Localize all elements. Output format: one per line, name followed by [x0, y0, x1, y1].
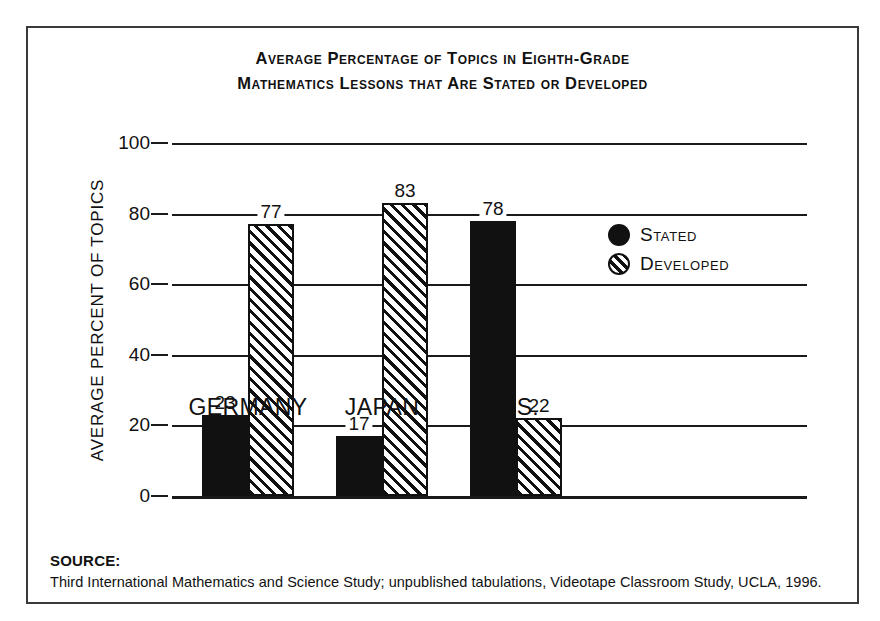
y-axis-title: AVERAGE PERCENT OF TOPICS — [85, 143, 111, 496]
chart-title: Average Percentage of Topics in Eighth-G… — [28, 46, 857, 96]
legend-label-developed: Developed — [640, 253, 729, 275]
y-tick-mark-80 — [151, 213, 168, 215]
bar-value-label: 77 — [257, 201, 284, 223]
source-text: Third International Mathematics and Scie… — [50, 574, 840, 590]
y-tick-mark-100 — [151, 142, 168, 144]
y-tick-mark-0 — [151, 495, 168, 497]
source-block: SOURCE: Third International Mathematics … — [50, 552, 840, 590]
y-axis-title-label: AVERAGE PERCENT OF TOPICS — [88, 178, 108, 460]
hatched-circle-icon — [608, 253, 630, 275]
chart-legend: Stated Developed — [608, 220, 729, 278]
gridline-100 — [172, 143, 807, 145]
x-axis-label-japan: JAPAN — [345, 394, 419, 421]
y-tick-label-0: 0 — [139, 485, 150, 507]
legend-item-stated: Stated — [608, 220, 729, 249]
plot-area: 020406080100237717837822 — [172, 143, 807, 496]
y-tick-label-80: 80 — [129, 203, 150, 225]
chart-frame: Average Percentage of Topics in Eighth-G… — [26, 26, 859, 604]
x-axis-label-germany: GERMANY — [188, 394, 307, 421]
bar-us-stated: 78 — [470, 221, 516, 496]
y-tick-mark-40 — [151, 354, 168, 356]
filled-circle-icon — [608, 224, 630, 246]
bar-germany-developed: 77 — [248, 224, 294, 496]
bar-japan-stated: 17 — [336, 436, 382, 496]
gridline-0 — [172, 496, 807, 499]
bar-value-label: 83 — [391, 180, 418, 202]
bar-germany-stated: 23 — [202, 415, 248, 496]
bar-japan-developed: 83 — [382, 203, 428, 496]
chart-title-line-2: Mathematics Lessons that Are Stated or D… — [28, 71, 857, 96]
y-tick-label-60: 60 — [129, 273, 150, 295]
y-tick-mark-60 — [151, 283, 168, 285]
y-tick-label-100: 100 — [118, 132, 150, 154]
y-tick-label-40: 40 — [129, 344, 150, 366]
chart-title-line-1: Average Percentage of Topics in Eighth-G… — [28, 46, 857, 71]
y-tick-mark-20 — [151, 424, 168, 426]
bar-us-developed: 22 — [516, 418, 562, 496]
y-tick-label-20: 20 — [129, 414, 150, 436]
source-heading: SOURCE: — [50, 552, 840, 569]
bar-value-label: 78 — [479, 198, 506, 220]
legend-item-developed: Developed — [608, 249, 729, 278]
x-axis-label-us: U.S. — [493, 394, 539, 421]
legend-label-stated: Stated — [640, 224, 697, 246]
